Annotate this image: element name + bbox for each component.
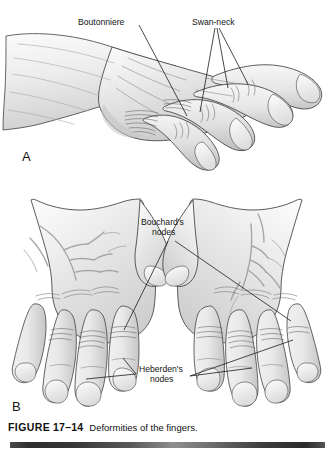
panel-a-illustration: Boutonniere Swan-neck — [0, 0, 333, 178]
panel-b: Bouchard's nodes Heberden's nodes — [0, 178, 333, 418]
label-swan-neck: Swan-neck — [192, 17, 235, 27]
caption-line: FIGURE17–14Deformities of the fingers. — [8, 421, 198, 433]
panel-b-illustration: Bouchard's nodes Heberden's nodes — [0, 178, 333, 418]
right-middle-nail — [232, 382, 257, 406]
label-boutonniere: Boutonniere — [78, 17, 125, 27]
label-heberdens-nodes-line1: Heberden's — [139, 364, 183, 374]
panel-letter-a: A — [22, 149, 31, 164]
caption-number: 17–14 — [53, 421, 83, 433]
label-bouchards-nodes-line2: nodes — [152, 227, 175, 237]
right-ring-nail — [265, 380, 288, 403]
figure-caption: FIGURE17–14Deformities of the fingers. — [0, 421, 333, 439]
label-bouchards-nodes-line1: Bouchard's — [141, 217, 184, 227]
hand-right-group — [163, 199, 321, 406]
panel-letter-b: B — [12, 399, 21, 414]
right-little-nail — [297, 363, 318, 382]
label-heberdens-nodes-line2: nodes — [150, 374, 173, 384]
figure-container: Boutonniere Swan-neck A — [0, 0, 333, 452]
caption-label: FIGURE — [8, 421, 50, 433]
panel-a: Boutonniere Swan-neck — [0, 0, 333, 178]
left-ring-nail — [45, 380, 68, 403]
hand-lateral-group: Boutonniere Swan-neck — [3, 17, 322, 170]
left-little-nail — [15, 363, 36, 382]
caption-text: Deformities of the fingers. — [89, 422, 197, 433]
bottom-rule-bar — [10, 442, 325, 448]
hand-left-group — [12, 199, 170, 406]
left-middle-nail — [76, 382, 101, 406]
